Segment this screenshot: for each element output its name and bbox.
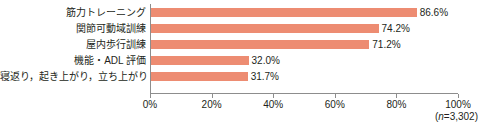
x-tick-2 xyxy=(273,94,274,98)
x-tick-4 xyxy=(396,94,397,98)
bar-3 xyxy=(150,56,249,65)
x-tick-1 xyxy=(212,94,213,98)
x-axis-line xyxy=(150,93,458,94)
y-axis-line xyxy=(150,4,151,93)
x-tick-label-2: 40% xyxy=(263,99,283,110)
x-tick-label-1: 20% xyxy=(202,99,222,110)
x-tick-0 xyxy=(150,94,151,98)
bar-0 xyxy=(150,8,417,17)
category-label-3: 機能・ADL 評価 xyxy=(0,55,146,66)
sample-size-note: (n=3,302) xyxy=(435,111,478,122)
bar-value-1: 74.2% xyxy=(382,24,410,34)
x-tick-label-5: 100% xyxy=(445,99,471,110)
bar-value-2: 71.2% xyxy=(372,40,400,50)
bar-value-4: 31.7% xyxy=(251,72,279,82)
x-tick-5 xyxy=(458,94,459,98)
bar-value-3: 32.0% xyxy=(252,56,280,66)
note-value: 3,302 xyxy=(450,111,475,122)
x-tick-label-4: 80% xyxy=(386,99,406,110)
category-label-2: 屋内歩行訓練 xyxy=(0,39,146,50)
bar-1 xyxy=(150,24,379,33)
horizontal-bar-chart: 筋力トレーニング 86.6% 関節可動域訓練 74.2% 屋内歩行訓練 71.2… xyxy=(0,0,484,126)
bar-4 xyxy=(150,72,248,81)
note-suffix: ) xyxy=(475,111,478,122)
category-label-1: 関節可動域訓練 xyxy=(0,23,146,34)
x-tick-label-3: 60% xyxy=(325,99,345,110)
category-label-0: 筋力トレーニング xyxy=(0,7,146,18)
category-label-4: 寝返り，起き上がり，立ち上がり xyxy=(0,71,146,82)
x-tick-3 xyxy=(335,94,336,98)
x-tick-label-0: 0% xyxy=(143,99,157,110)
bar-2 xyxy=(150,40,369,49)
bar-value-0: 86.6% xyxy=(420,8,448,18)
